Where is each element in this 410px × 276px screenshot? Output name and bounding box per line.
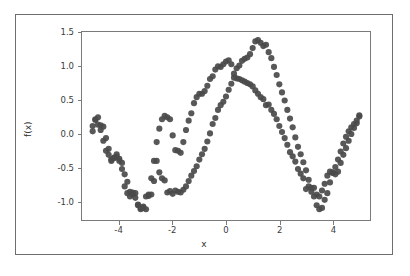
scatter-point	[300, 175, 306, 181]
scatter-point	[170, 132, 176, 138]
scatter-point	[324, 190, 330, 196]
scatter-point	[122, 171, 128, 177]
scatter-point	[194, 163, 200, 169]
x-axis-label: x	[16, 240, 392, 249]
scatter-point	[183, 127, 189, 133]
scatter-point	[186, 118, 192, 124]
scatter-point	[306, 183, 312, 189]
scatter-point	[178, 150, 184, 156]
y-tick-label: 1.0	[28, 62, 74, 71]
scatter-point	[266, 101, 272, 107]
scatter-point	[114, 151, 120, 157]
scatter-point	[338, 148, 344, 154]
scatter-point	[290, 153, 296, 159]
scatter-point	[282, 135, 288, 141]
scatter-point	[247, 51, 253, 57]
scatter-point	[260, 96, 266, 102]
x-tick-label: 2	[265, 226, 295, 235]
y-tick-label: -1.0	[28, 198, 74, 207]
scatter-point	[210, 73, 216, 79]
scatter-point	[284, 107, 290, 113]
scatter-point	[140, 205, 146, 211]
y-tick-label: -0.5	[28, 164, 74, 173]
scatter-point	[167, 116, 173, 122]
x-tick-label: -4	[104, 226, 134, 235]
scatter-point	[191, 100, 197, 106]
scatter-point	[274, 116, 280, 122]
scatter-point	[276, 123, 282, 129]
scatter-point	[343, 134, 349, 140]
plot-area	[81, 31, 371, 221]
scatter-point	[332, 164, 338, 170]
x-tick-mark	[119, 221, 120, 225]
scatter-point	[180, 139, 186, 145]
scatter-point	[276, 81, 282, 87]
scatter-point	[207, 130, 213, 136]
scatter-point	[279, 89, 285, 95]
x-tick-mark	[333, 221, 334, 225]
scatter-point	[154, 139, 160, 145]
scatter-point	[274, 72, 280, 78]
x-tick-mark	[226, 221, 227, 225]
scatter-point	[290, 124, 296, 130]
y-tick-label: 0.5	[28, 96, 74, 105]
scatter-point	[119, 166, 125, 172]
scatter-point	[186, 178, 192, 184]
scatter-point	[287, 116, 293, 122]
scatter-point	[303, 167, 309, 173]
scatter-point	[202, 88, 208, 94]
scatter-point	[196, 157, 202, 163]
scatter-point	[204, 83, 210, 89]
scatter-point	[266, 49, 272, 55]
scatter-point	[116, 158, 122, 164]
scatter-point	[319, 187, 325, 193]
scatter-point	[271, 64, 277, 70]
scatter-point	[226, 87, 232, 93]
scatter-point	[311, 185, 317, 191]
scatter-points	[82, 32, 370, 220]
scatter-point	[183, 183, 189, 189]
x-tick-mark	[280, 221, 281, 225]
scatter-point	[202, 146, 208, 152]
scatter-point	[327, 179, 333, 185]
scatter-point	[263, 42, 269, 48]
x-tick-label: 4	[318, 226, 348, 235]
scatter-point	[95, 122, 101, 128]
scatter-series-series-2	[90, 57, 363, 212]
scatter-point	[210, 121, 216, 127]
scatter-point	[300, 159, 306, 165]
scatter-point	[330, 169, 336, 175]
scatter-point	[220, 99, 226, 105]
scatter-point	[298, 151, 304, 157]
scatter-point	[98, 127, 104, 133]
scatter-point	[292, 134, 298, 140]
scatter-point	[295, 144, 301, 150]
scatter-point	[223, 93, 229, 99]
scatter-point	[250, 45, 256, 51]
scatter-point	[162, 177, 168, 183]
scatter-point	[340, 140, 346, 146]
scatter-point	[282, 97, 288, 103]
scatter-point	[268, 55, 274, 61]
scatter-point	[212, 115, 218, 121]
scatter-point	[90, 123, 96, 129]
scatter-point	[335, 157, 341, 163]
scatter-point	[292, 159, 298, 165]
y-tick-label: 0.0	[28, 130, 74, 139]
scatter-point	[228, 61, 234, 67]
scatter-point	[356, 114, 362, 120]
scatter-point	[156, 169, 162, 175]
scatter-point	[156, 126, 162, 132]
scatter-point	[319, 205, 325, 211]
scatter-point	[199, 151, 205, 157]
scatter-point	[284, 142, 290, 148]
scatter-point	[151, 158, 157, 164]
scatter-point	[148, 175, 154, 181]
scatter-point	[106, 152, 112, 158]
scatter-point	[228, 81, 234, 87]
figure-frame: f(x) -1.0-0.50.00.51.01.5 -4-2024 x	[15, 14, 393, 255]
x-tick-label: -2	[157, 226, 187, 235]
scatter-point	[122, 183, 128, 189]
scatter-point	[322, 181, 328, 187]
x-tick-label: 0	[211, 226, 241, 235]
